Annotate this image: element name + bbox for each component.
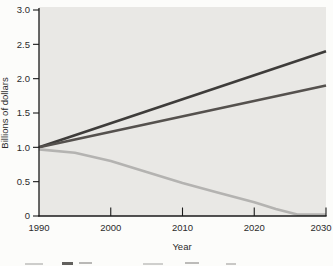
x-tick-label: 2010 — [172, 222, 193, 233]
y-axis-title: Billions of dollars — [0, 77, 10, 149]
x-axis-title: Year — [172, 241, 191, 252]
x-tick-label: 2000 — [100, 222, 121, 233]
line-chart-figure: 00.51.01.52.02.53.019902000201020202030 … — [0, 0, 333, 266]
y-tick-label: 2.5 — [17, 39, 30, 50]
cropped-legend-fragment — [62, 262, 73, 265]
x-tick-label: 2020 — [244, 222, 265, 233]
x-tick-label: 2030 — [310, 222, 331, 233]
chart-svg: 00.51.01.52.02.53.019902000201020202030 … — [0, 0, 333, 266]
cropped-legend-fragment — [143, 263, 163, 265]
cropped-legend-fragment — [185, 262, 199, 264]
plot-area — [39, 7, 326, 216]
chart-layer: 00.51.01.52.02.53.019902000201020202030 — [17, 4, 332, 233]
x-tick-label: 1990 — [28, 222, 49, 233]
y-tick-label: 2.0 — [17, 73, 30, 84]
y-tick-label: 1.0 — [17, 142, 30, 153]
cropped-legend-fragment — [226, 263, 236, 265]
y-tick-label: 1.5 — [17, 107, 30, 118]
y-tick-label: 3.0 — [17, 4, 30, 15]
y-tick-label: 0.5 — [17, 176, 30, 187]
cropped-legend-fragment — [79, 262, 92, 264]
cropped-legend-fragment — [25, 263, 43, 265]
y-tick-label: 0 — [25, 210, 30, 221]
